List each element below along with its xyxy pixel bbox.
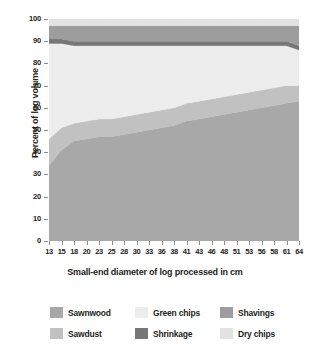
- y-tick-label: 50: [15, 126, 41, 134]
- y-tick-label: 0: [15, 237, 41, 245]
- x-tick-mark: [274, 241, 275, 245]
- y-axis: 0102030405060708090100: [0, 0, 49, 352]
- legend-swatch: [135, 307, 148, 318]
- x-tick-mark: [149, 241, 150, 245]
- legend-item-green-chips[interactable]: Green chips: [135, 307, 220, 318]
- area-series-dry-chips: [49, 19, 299, 26]
- legend-swatch: [220, 328, 233, 339]
- y-tick-mark: [44, 219, 48, 220]
- x-tick-mark: [137, 241, 138, 245]
- x-tick-mark: [249, 241, 250, 245]
- y-tick-label: 30: [15, 170, 41, 178]
- plot-area: [49, 19, 299, 241]
- x-tick-mark: [112, 241, 113, 245]
- y-tick-mark: [44, 63, 48, 64]
- y-tick-label: 20: [15, 193, 41, 201]
- y-tick-label: 10: [15, 215, 41, 223]
- x-tick-mark: [187, 241, 188, 245]
- x-tick-mark: [174, 241, 175, 245]
- x-tick-mark: [199, 241, 200, 245]
- x-tick-mark: [74, 241, 75, 245]
- x-tick-mark: [299, 241, 300, 245]
- x-tick-mark: [224, 241, 225, 245]
- x-tick-label: 64: [288, 248, 310, 256]
- legend-label: Sawnwood: [68, 308, 111, 318]
- y-tick-mark: [44, 174, 48, 175]
- legend-label: Dry chips: [238, 329, 275, 339]
- x-tick-mark: [237, 241, 238, 245]
- x-tick-mark: [99, 241, 100, 245]
- x-tick-mark: [62, 241, 63, 245]
- legend-swatch: [50, 307, 63, 318]
- y-tick-label: 60: [15, 104, 41, 112]
- chart-figure: Percent of log volume 010203040506070809…: [0, 0, 310, 352]
- x-tick-mark: [212, 241, 213, 245]
- y-tick-label: 80: [15, 59, 41, 67]
- y-tick-label: 100: [15, 15, 41, 23]
- x-axis-title: Small-end diameter of log processed in c…: [0, 267, 310, 277]
- x-tick-mark: [124, 241, 125, 245]
- y-tick-mark: [44, 41, 48, 42]
- legend-item-dry-chips[interactable]: Dry chips: [220, 328, 300, 339]
- x-tick-mark: [262, 241, 263, 245]
- legend-label: Shavings: [238, 308, 274, 318]
- legend-item-sawnwood[interactable]: Sawnwood: [50, 307, 135, 318]
- legend-swatch: [220, 307, 233, 318]
- y-tick-mark: [44, 86, 48, 87]
- legend-swatch: [135, 328, 148, 339]
- legend-item-shavings[interactable]: Shavings: [220, 307, 300, 318]
- y-tick-label: 70: [15, 82, 41, 90]
- legend-item-shrinkage[interactable]: Shrinkage: [135, 328, 220, 339]
- legend-swatch: [50, 328, 63, 339]
- y-tick-mark: [44, 108, 48, 109]
- y-tick-label: 90: [15, 37, 41, 45]
- y-tick-mark: [44, 152, 48, 153]
- x-tick-mark: [49, 241, 50, 245]
- legend-label: Shrinkage: [153, 329, 192, 339]
- x-tick-mark: [287, 241, 288, 245]
- y-tick-mark: [44, 19, 48, 20]
- stacked-area-svg: [49, 19, 299, 241]
- chart-legend: SawnwoodGreen chipsShavingsSawdustShrink…: [50, 302, 300, 344]
- legend-label: Sawdust: [68, 329, 102, 339]
- x-tick-mark: [162, 241, 163, 245]
- y-tick-mark: [44, 197, 48, 198]
- x-tick-mark: [87, 241, 88, 245]
- y-tick-mark: [44, 130, 48, 131]
- y-tick-mark: [44, 241, 48, 242]
- legend-item-sawdust[interactable]: Sawdust: [50, 328, 135, 339]
- y-tick-label: 40: [15, 148, 41, 156]
- legend-label: Green chips: [153, 308, 200, 318]
